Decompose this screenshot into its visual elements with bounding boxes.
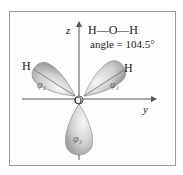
- hydrogen-left-label: H: [22, 60, 31, 72]
- z-axis-label: z: [66, 25, 70, 36]
- y-axis-label: y: [143, 104, 148, 115]
- bond-angle-label: angle = 104.5°: [90, 39, 155, 50]
- orbital-label-phi3: φ₃: [73, 134, 82, 144]
- hydrogen-right-label: H: [124, 62, 133, 74]
- oxygen-label: O: [74, 95, 82, 106]
- orbital-label-phi2: φ₂: [37, 80, 46, 90]
- orbital-lobe-phi3: [65, 104, 92, 155]
- orbital-label-phi1: φ₁: [110, 80, 119, 90]
- molecule-formula: H—O—H: [88, 24, 138, 36]
- orbital-lobe-phi1: [77, 56, 130, 105]
